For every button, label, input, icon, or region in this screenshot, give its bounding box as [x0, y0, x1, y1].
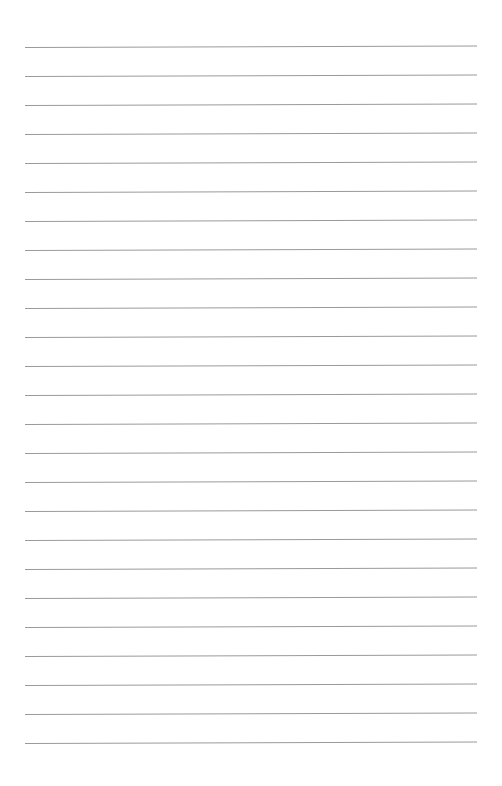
rule-line: [25, 423, 477, 425]
rule-line: [25, 365, 477, 367]
rule-line: [25, 742, 477, 744]
rule-line: [25, 278, 477, 280]
rule-line: [25, 336, 477, 338]
rule-line: [25, 568, 477, 570]
rule-line: [25, 452, 477, 454]
rule-line: [25, 684, 477, 686]
rule-line: [25, 713, 477, 715]
ruled-paper-page: [0, 0, 502, 786]
rule-line: [25, 249, 477, 251]
rule-line: [25, 75, 477, 77]
rule-line: [25, 104, 477, 106]
rule-line: [25, 46, 477, 48]
rule-line: [25, 220, 477, 222]
ruled-lines-area: [0, 0, 502, 786]
rule-line: [25, 481, 477, 483]
rule-line: [25, 307, 477, 309]
rule-line: [25, 394, 477, 396]
rule-line: [25, 626, 477, 628]
rule-line: [25, 162, 477, 164]
rule-line: [25, 539, 477, 541]
rule-line: [25, 133, 477, 135]
rule-line: [25, 597, 477, 599]
rule-line: [25, 191, 477, 193]
rule-line: [25, 655, 477, 657]
rule-line: [25, 510, 477, 512]
